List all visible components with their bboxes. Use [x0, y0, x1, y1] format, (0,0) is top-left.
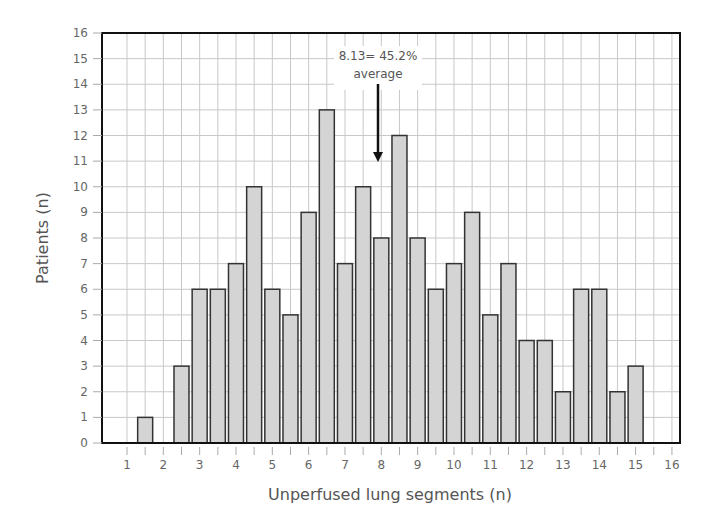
- bar: [319, 110, 334, 443]
- x-tick-label: 6: [305, 458, 313, 472]
- y-axis-ticks: 012345678910111213141516: [73, 26, 102, 450]
- y-tick-label: 2: [80, 385, 88, 399]
- bar: [192, 289, 207, 443]
- x-tick-label: 10: [446, 458, 461, 472]
- x-tick-label: 2: [160, 458, 168, 472]
- x-tick-label: 4: [232, 458, 240, 472]
- bar: [465, 212, 480, 443]
- y-tick-label: 9: [80, 205, 88, 219]
- bar: [247, 187, 262, 443]
- y-tick-label: 7: [80, 257, 88, 271]
- x-tick-label: 8: [377, 458, 385, 472]
- y-tick-label: 16: [73, 26, 88, 40]
- y-tick-label: 8: [80, 231, 88, 245]
- y-tick-label: 1: [80, 410, 88, 424]
- bar: [519, 341, 534, 444]
- bar: [574, 289, 589, 443]
- bar: [210, 289, 225, 443]
- y-tick-label: 15: [73, 52, 88, 66]
- y-tick-label: 4: [80, 334, 88, 348]
- y-tick-label: 14: [73, 77, 88, 91]
- x-tick-label: 9: [414, 458, 422, 472]
- y-axis-title: Patients (n): [33, 192, 52, 284]
- bar: [265, 289, 280, 443]
- bar: [356, 187, 371, 443]
- x-tick-label: 3: [196, 458, 204, 472]
- x-tick-label: 5: [268, 458, 276, 472]
- bar: [537, 341, 552, 444]
- bar: [392, 136, 407, 444]
- y-tick-label: 5: [80, 308, 88, 322]
- x-tick-label: 14: [592, 458, 607, 472]
- x-tick-label: 11: [483, 458, 498, 472]
- y-tick-label: 11: [73, 154, 88, 168]
- bar: [301, 212, 316, 443]
- bar: [592, 289, 607, 443]
- x-tick-label: 16: [664, 458, 679, 472]
- x-tick-label: 7: [341, 458, 349, 472]
- x-tick-label: 13: [555, 458, 570, 472]
- bar: [410, 238, 425, 443]
- bar: [610, 392, 625, 443]
- bar: [374, 238, 389, 443]
- y-tick-label: 12: [73, 129, 88, 143]
- y-tick-label: 3: [80, 359, 88, 373]
- bar: [628, 366, 643, 443]
- y-tick-label: 10: [73, 180, 88, 194]
- x-tick-label: 15: [628, 458, 643, 472]
- y-tick-label: 6: [80, 282, 88, 296]
- bar: [446, 264, 461, 443]
- bar: [428, 289, 443, 443]
- histogram-chart: 12345678910111213141516 0123456789101112…: [0, 0, 708, 527]
- x-tick-label: 1: [123, 458, 131, 472]
- annotation-label: average: [353, 67, 402, 81]
- annotation-value: 8.13= 45.2%: [339, 49, 418, 63]
- bar: [138, 417, 153, 443]
- bar: [174, 366, 189, 443]
- x-axis-ticks: 12345678910111213141516: [123, 447, 679, 472]
- y-tick-label: 0: [80, 436, 88, 450]
- bar: [555, 392, 570, 443]
- x-tick-label: 12: [519, 458, 534, 472]
- bar: [228, 264, 243, 443]
- bar-series: [138, 110, 643, 443]
- bar: [483, 315, 498, 443]
- bar: [337, 264, 352, 443]
- y-tick-label: 13: [73, 103, 88, 117]
- bar: [283, 315, 298, 443]
- bar: [501, 264, 516, 443]
- x-axis-title: Unperfused lung segments (n): [268, 485, 512, 504]
